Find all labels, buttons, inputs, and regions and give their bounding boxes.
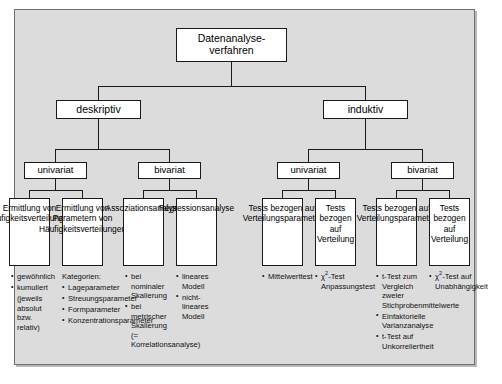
note-item: t-Test zum Vergleich zweier Stichprobenm… xyxy=(376,272,426,310)
leaf-5-label: Tests bezogen auf Verteilungsparameter xyxy=(243,203,323,224)
note-item: bei metrischer Skalierung (= Korrelation… xyxy=(125,302,171,350)
leaf-4-label: Regressionsanalyse xyxy=(159,203,234,213)
note-tests-verteilungsparameter-univariat: Mittelwerttest xyxy=(262,272,310,283)
node-root-line1: Datenanalyse- xyxy=(198,32,266,44)
note-header: Kategorien: xyxy=(62,272,124,282)
connector-bivariat-i-bus xyxy=(396,190,449,191)
node-bivariat-induktiv-label: bivariat xyxy=(407,165,438,176)
connector-leaf-4 xyxy=(196,190,197,198)
node-deskriptiv-label: deskriptiv xyxy=(76,104,120,116)
node-induktiv-label: induktiv xyxy=(348,104,384,116)
connector-to-bivariat-i xyxy=(422,149,423,162)
note-item: χ2-Test Anpassungstest xyxy=(315,272,363,291)
leaf-tests-verteilungsparameter-bivariat: Tests bezogen auf Verteilungsparameter xyxy=(376,198,417,266)
note-regressionsanalyse: lineares Modellnicht-lineares Modell xyxy=(176,272,222,323)
node-univariat-induktiv: univariat xyxy=(277,162,340,179)
node-root-line2: verfahren xyxy=(209,44,253,56)
connector-leaf-3 xyxy=(143,190,144,198)
connector-to-deskriptiv xyxy=(98,86,99,100)
leaf-7-label: Tests bezogen auf Verteilungsparameter xyxy=(357,203,437,224)
note-list: χ2-Test Anpassungstest xyxy=(315,272,363,291)
note-item: χ2-Test auf Unabhängigkeit xyxy=(429,272,475,291)
connector-univariat-d-bus xyxy=(29,190,82,191)
note-list: Mittelwerttest xyxy=(262,272,310,282)
note-tests-verteilung-univariat: χ2-Test Anpassungstest xyxy=(315,272,363,293)
diagram-canvas: Datenanalyse- verfahren deskriptiv induk… xyxy=(0,0,502,384)
leaf-8-label: Tests bezogen auf Verteilung xyxy=(430,203,469,244)
connector-univariat-i-stem xyxy=(308,179,309,190)
node-root: Datenanalyse- verfahren xyxy=(176,28,287,62)
connector-root-stem xyxy=(231,62,232,86)
connector-univariat-d-stem xyxy=(55,179,56,190)
note-item: gewöhnlich xyxy=(11,272,57,282)
leaf-tests-verteilung-univariat: Tests bezogen auf Verteilung xyxy=(315,198,356,266)
node-induktiv: induktiv xyxy=(323,100,408,119)
connector-leaf-1 xyxy=(29,190,30,198)
node-univariat-deskriptiv-label: univariat xyxy=(38,165,74,176)
connector-leaf-2 xyxy=(82,190,83,198)
connector-leaf-7 xyxy=(396,190,397,198)
note-list: t-Test zum Vergleich zweier Stichprobenm… xyxy=(376,272,426,352)
note-item: t-Test auf Unkorreliertheit xyxy=(376,332,426,351)
note-tests-verteilung-bivariat: χ2-Test auf Unabhängigkeit xyxy=(429,272,475,293)
connector-induktiv-bus xyxy=(308,149,422,150)
note-item: (jeweils absolut bzw. relativ) xyxy=(11,294,57,332)
note-item: nicht-lineares Modell xyxy=(176,293,222,322)
note-item: kumuliert xyxy=(11,283,57,293)
note-list: LageparameterStreuungsparameterFormparam… xyxy=(62,283,124,326)
node-bivariat-deskriptiv-label: bivariat xyxy=(154,165,185,176)
leaf-tests-verteilungsparameter-univariat: Tests bezogen auf Verteilungsparameter xyxy=(262,198,303,266)
connector-to-univariat-i xyxy=(308,149,309,162)
note-item: Mittelwerttest xyxy=(262,272,310,282)
note-item: Streuungsparameter xyxy=(62,294,124,304)
connector-leaf-6 xyxy=(335,190,336,198)
connector-bivariat-i-stem xyxy=(422,179,423,190)
connector-deskriptiv-stem xyxy=(98,119,99,149)
leaf-tests-verteilung-bivariat: Tests bezogen auf Verteilung xyxy=(429,198,470,266)
leaf-6-label: Tests bezogen auf Verteilung xyxy=(316,203,355,244)
diagram-frame: Datenanalyse- verfahren deskriptiv induk… xyxy=(14,9,475,365)
note-item: Formparameter xyxy=(62,305,124,315)
note-parameter: Kategorien:LageparameterStreuungsparamet… xyxy=(62,272,124,327)
connector-induktiv-stem xyxy=(365,119,366,149)
note-assoziationsanalyse: bei nominaler Skalierungbei metrischer S… xyxy=(125,272,171,352)
node-univariat-deskriptiv: univariat xyxy=(24,162,87,179)
connector-to-bivariat-d xyxy=(169,149,170,162)
connector-root-bus xyxy=(98,86,365,87)
note-item: Konzentrationsparameter xyxy=(62,316,124,326)
node-deskriptiv: deskriptiv xyxy=(56,100,141,119)
connector-to-univariat-d xyxy=(55,149,56,162)
node-bivariat-induktiv: bivariat xyxy=(391,162,454,179)
note-item: lineares Modell xyxy=(176,272,222,291)
connector-leaf-5 xyxy=(282,190,283,198)
note-item: Einfaktorielle Varianzanalyse xyxy=(376,312,426,331)
connector-deskriptiv-bus xyxy=(55,149,169,150)
connector-bivariat-d-stem xyxy=(169,179,170,190)
leaf-ermittlung-parameter: Ermittlung von Parametern von Häufigkeit… xyxy=(62,198,103,266)
connector-bivariat-d-bus xyxy=(143,190,196,191)
connector-univariat-i-bus xyxy=(282,190,335,191)
note-list: bei nominaler Skalierungbei metrischer S… xyxy=(125,272,171,350)
connector-to-induktiv xyxy=(365,86,366,100)
leaf-regressionsanalyse: Regressionsanalyse xyxy=(176,198,217,266)
connector-leaf-8 xyxy=(449,190,450,198)
node-univariat-induktiv-label: univariat xyxy=(291,165,327,176)
note-list: χ2-Test auf Unabhängigkeit xyxy=(429,272,475,291)
note-tests-verteilungsparameter-bivariat: t-Test zum Vergleich zweier Stichprobenm… xyxy=(376,272,426,353)
note-list: lineares Modellnicht-lineares Modell xyxy=(176,272,222,321)
node-bivariat-deskriptiv: bivariat xyxy=(138,162,201,179)
note-item: Lageparameter xyxy=(62,283,124,293)
note-list: gewöhnlichkumuliert(jeweils absolut bzw.… xyxy=(11,272,57,332)
note-item: bei nominaler Skalierung xyxy=(125,272,171,301)
note-haeufigkeitsverteilungen: gewöhnlichkumuliert(jeweils absolut bzw.… xyxy=(11,272,57,334)
